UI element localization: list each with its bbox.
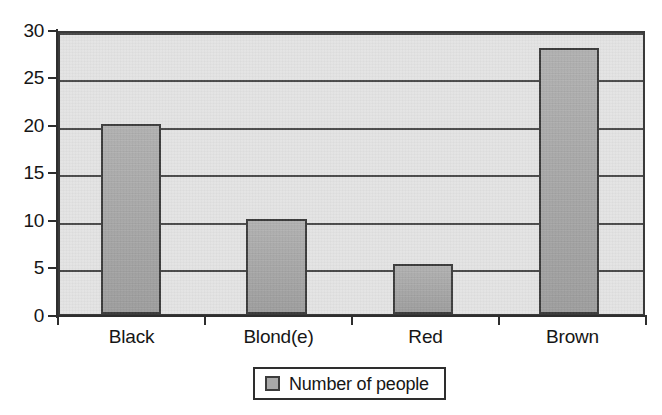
x-tick-label-brown: Brown bbox=[499, 326, 646, 348]
y-tick-label-30: 30 bbox=[4, 21, 44, 40]
x-tick-0 bbox=[57, 316, 59, 325]
bar-chart: 30 25 20 15 10 5 0 Black Blond(e) Red Br… bbox=[0, 0, 662, 415]
bar-brown bbox=[539, 48, 599, 314]
plot-area bbox=[58, 31, 645, 316]
y-tick-15 bbox=[48, 172, 58, 174]
y-tick-label-15: 15 bbox=[4, 163, 44, 182]
y-tick-label-10: 10 bbox=[4, 211, 44, 230]
x-tick-3 bbox=[498, 316, 500, 325]
y-tick-5 bbox=[48, 267, 58, 269]
x-tick-label-blonde: Blond(e) bbox=[205, 326, 352, 348]
legend: Number of people bbox=[253, 367, 446, 400]
legend-color-swatch-icon bbox=[265, 376, 280, 391]
x-tick-label-red: Red bbox=[352, 326, 499, 348]
y-tick-label-20: 20 bbox=[4, 116, 44, 135]
bar-red bbox=[393, 264, 453, 314]
y-tick-25 bbox=[48, 77, 58, 79]
x-tick-label-black: Black bbox=[58, 326, 205, 348]
y-tick-20 bbox=[48, 125, 58, 127]
gridline-30 bbox=[60, 33, 643, 35]
y-tick-label-0: 0 bbox=[4, 306, 44, 325]
legend-label: Number of people bbox=[289, 374, 429, 394]
x-tick-1 bbox=[204, 316, 206, 325]
y-tick-10 bbox=[48, 220, 58, 222]
bar-blonde bbox=[246, 219, 307, 314]
y-tick-label-5: 5 bbox=[4, 258, 44, 277]
x-tick-4 bbox=[645, 316, 647, 325]
y-tick-30 bbox=[48, 30, 58, 32]
y-tick-label-25: 25 bbox=[4, 68, 44, 87]
bar-black bbox=[101, 124, 161, 314]
x-tick-2 bbox=[351, 316, 353, 325]
